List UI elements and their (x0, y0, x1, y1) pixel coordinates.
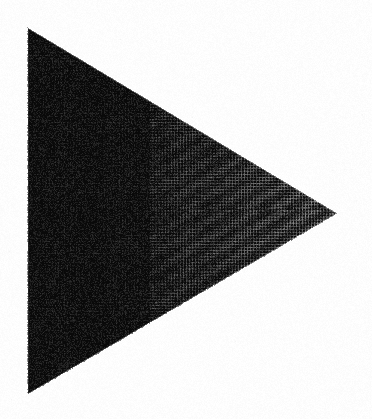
moire-triangle-figure (0, 0, 372, 419)
figure-container: Scanned halftone print of a solid triang… (0, 0, 372, 419)
